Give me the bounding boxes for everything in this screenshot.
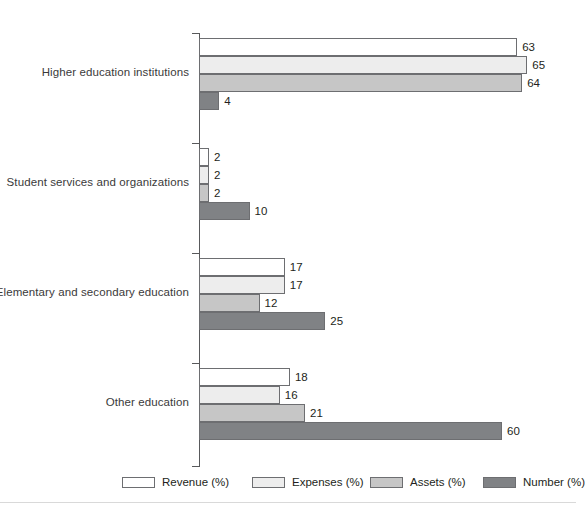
- bar-assets: [199, 294, 260, 312]
- legend-item[interactable]: Assets (%): [370, 472, 466, 492]
- bar-row: 10: [199, 202, 310, 220]
- legend-label: Revenue (%): [162, 476, 229, 488]
- legend-item[interactable]: Expenses (%): [252, 472, 364, 492]
- bar-row: 65: [199, 56, 587, 74]
- bottom-divider: [0, 502, 576, 503]
- axis-tick: [192, 466, 200, 467]
- bar-value-label: 2: [214, 187, 220, 199]
- plot-area: Higher education institutions6365644Stud…: [0, 0, 576, 470]
- bar-number: [199, 422, 502, 440]
- legend-swatch-icon: [370, 477, 403, 488]
- legend-swatch-icon: [122, 477, 155, 488]
- bar-value-label: 4: [224, 95, 230, 107]
- legend-swatch-icon: [252, 477, 285, 488]
- axis-tick: [192, 143, 200, 144]
- legend-label: Assets (%): [410, 476, 466, 488]
- bar-number: [199, 92, 219, 110]
- bar-expenses: [199, 56, 527, 74]
- bar-value-label: 60: [507, 425, 520, 437]
- bar-row: 16: [199, 386, 340, 404]
- bar-revenue: [199, 258, 285, 276]
- bar-value-label: 17: [290, 261, 303, 273]
- bar-row: 25: [199, 312, 385, 330]
- bar-expenses: [199, 276, 285, 294]
- bar-value-label: 12: [265, 297, 278, 309]
- bar-group: Elementary and secondary education171712…: [0, 258, 576, 330]
- bar-revenue: [199, 38, 517, 56]
- bar-row: 21: [199, 404, 365, 422]
- bar-revenue: [199, 148, 209, 166]
- bar-assets: [199, 404, 305, 422]
- bar-value-label: 64: [527, 77, 540, 89]
- bar-group: Student services and organizations22210: [0, 148, 576, 220]
- bar-expenses: [199, 386, 280, 404]
- chart-legend: Revenue (%)Expenses (%)Assets (%)Number …: [0, 472, 576, 494]
- bar-row: 2: [199, 148, 269, 166]
- bar-value-label: 2: [214, 169, 220, 181]
- legend-swatch-icon: [483, 477, 516, 488]
- bar-group: Higher education institutions6365644: [0, 38, 576, 110]
- category-label: Elementary and secondary education: [0, 286, 189, 298]
- legend-item[interactable]: Number (%): [483, 472, 585, 492]
- bar-value-label: 25: [330, 315, 343, 327]
- bar-row: 2: [199, 166, 269, 184]
- legend-label: Number (%): [523, 476, 585, 488]
- bar-number: [199, 202, 250, 220]
- bar-row: 12: [199, 294, 320, 312]
- legend-item[interactable]: Revenue (%): [122, 472, 229, 492]
- bar-row: 4: [199, 92, 279, 110]
- bar-row: 60: [199, 422, 562, 440]
- bar-value-label: 18: [295, 371, 308, 383]
- bar-value-label: 17: [290, 279, 303, 291]
- axis-tick: [192, 33, 200, 34]
- axis-tick: [192, 363, 200, 364]
- bar-value-label: 21: [310, 407, 323, 419]
- category-label: Student services and organizations: [0, 176, 189, 188]
- bar-row: 17: [199, 258, 345, 276]
- category-label: Other education: [0, 396, 189, 408]
- bar-group: Other education18162160: [0, 368, 576, 440]
- bar-assets: [199, 74, 522, 92]
- bar-value-label: 2: [214, 151, 220, 163]
- bar-row: 2: [199, 184, 269, 202]
- bar-value-label: 63: [522, 41, 535, 53]
- bar-row: 17: [199, 276, 345, 294]
- legend-label: Expenses (%): [292, 476, 364, 488]
- bar-value-label: 65: [532, 59, 545, 71]
- bar-row: 64: [199, 74, 582, 92]
- bar-assets: [199, 184, 209, 202]
- bar-value-label: 10: [255, 205, 268, 217]
- axis-tick: [192, 253, 200, 254]
- bar-number: [199, 312, 325, 330]
- bar-row: 18: [199, 368, 350, 386]
- bar-value-label: 16: [285, 389, 298, 401]
- bar-revenue: [199, 368, 290, 386]
- bar-expenses: [199, 166, 209, 184]
- category-label: Higher education institutions: [0, 66, 189, 78]
- bar-row: 63: [199, 38, 577, 56]
